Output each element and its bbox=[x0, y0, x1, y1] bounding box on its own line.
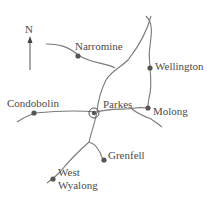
label-wyalong: Wyalong bbox=[58, 179, 98, 191]
parkes-marker-icon[interactable] bbox=[89, 108, 99, 118]
town-molong[interactable] bbox=[145, 105, 150, 110]
label-molong: Molong bbox=[153, 105, 188, 117]
town-condobolin[interactable] bbox=[31, 110, 36, 115]
label-wellington: Wellington bbox=[155, 60, 204, 72]
town-grenfell[interactable] bbox=[101, 157, 106, 162]
label-parkes: Parkes bbox=[103, 98, 132, 110]
town-narromine[interactable] bbox=[75, 53, 80, 58]
north-label: N bbox=[25, 23, 33, 35]
town-west-wyalong[interactable] bbox=[50, 176, 55, 181]
north-arrow-icon bbox=[28, 36, 33, 70]
town-wellington[interactable] bbox=[147, 65, 152, 70]
label-narromine: Narromine bbox=[75, 40, 123, 52]
label-condobolin: Condobolin bbox=[7, 97, 59, 109]
label-grenfell: Grenfell bbox=[108, 149, 145, 161]
map: N Narromine Wellington Condobolin Parkes… bbox=[0, 0, 207, 199]
label-west: West bbox=[58, 166, 80, 178]
